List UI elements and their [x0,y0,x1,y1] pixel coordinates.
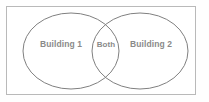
venn-circle-right [92,13,188,89]
venn-label-right: Building 2 [130,39,172,49]
venn-label-left: Building 1 [40,39,82,49]
venn-label-intersection: Both [97,40,116,49]
venn-diagram-canvas: Building 1 Both Building 2 [0,0,209,102]
venn-circle-left [23,13,119,89]
venn-diagram: Building 1 Both Building 2 [0,0,209,102]
